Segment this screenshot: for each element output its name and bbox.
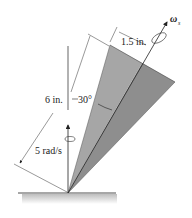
omega-vertical-label: 5 rad/s [35, 145, 62, 156]
radius-dimension: 1.5 in. [110, 27, 146, 47]
ground [18, 193, 117, 204]
spin-rotation-icon [150, 31, 168, 46]
omega-s-subscript: s [178, 20, 181, 26]
diagram-canvas: ω s 5 rad/s 30° 6 in. 1.5 in. [0, 0, 192, 218]
vertical-axis: 5 rad/s [35, 46, 75, 193]
radius-label: 1.5 in. [121, 36, 146, 47]
angle-label: 30° [78, 94, 92, 105]
cone [68, 45, 175, 193]
slant-length-label: 6 in. [45, 94, 63, 105]
cone-diagram: ω s 5 rad/s 30° 6 in. 1.5 in. [0, 0, 192, 218]
vertical-rotation-icon [65, 137, 75, 142]
omega-s-label: ω [170, 13, 177, 24]
